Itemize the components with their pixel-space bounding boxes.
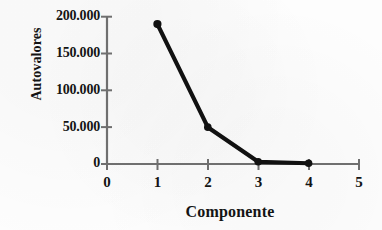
x-axis-tick-label-0: 0	[93, 174, 121, 191]
y-axis-tick-label-50000: 50.000	[28, 119, 100, 135]
x-axis-tick-label-3: 3	[245, 174, 273, 191]
x-axis-tick-label-2: 2	[194, 174, 222, 191]
x-axis-tick-label-1: 1	[144, 174, 172, 191]
series-line-autovalores	[157, 24, 308, 163]
x-axis-tick-label-4: 4	[295, 174, 323, 191]
data-point-3	[254, 158, 262, 166]
y-axis-tick-label-0: 0	[28, 155, 100, 171]
y-axis-title: Autovalores	[29, 9, 45, 119]
scree-plot-figure: 200.000 150.000 100.000 50.000 0 0 1 2 3…	[0, 0, 382, 230]
data-point-1	[153, 20, 161, 28]
x-axis-title: Componente	[120, 203, 340, 221]
data-point-4	[305, 159, 313, 167]
data-point-2	[204, 123, 212, 131]
plot-canvas	[0, 0, 382, 230]
x-axis-tick-label-5: 5	[345, 174, 373, 191]
